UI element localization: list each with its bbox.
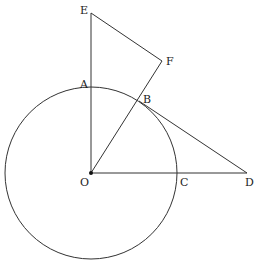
label-b: B [143,93,151,106]
label-a: A [79,78,89,91]
label-d: D [245,176,254,189]
label-o: O [80,176,89,189]
label-e: E [80,4,88,17]
center-dot [89,171,93,175]
segment-bd [139,101,247,173]
label-f: F [166,55,174,68]
label-c: C [180,176,188,189]
segment-ef [91,13,162,61]
segment-fo [91,61,162,173]
geometry-diagram: E F A B O C D [0,0,258,266]
